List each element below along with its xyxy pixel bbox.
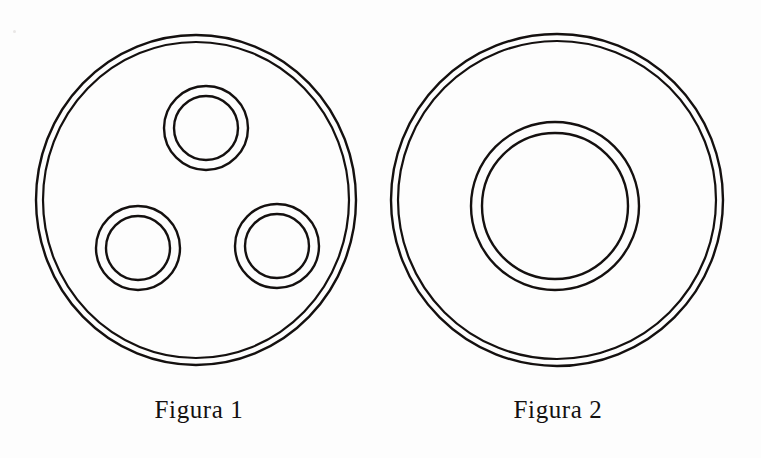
figure-1-hole-bottom-left-outer-edge [96, 206, 180, 290]
figure-2-group [391, 34, 723, 366]
figure-1-hole-bottom-right-inner-edge [245, 214, 309, 278]
scan-speck [13, 30, 16, 33]
figure-2-hole-center-inner-edge [482, 133, 628, 279]
figure-2-hole-center-outer-edge [471, 122, 639, 290]
figure-2-plate-inner-edge [398, 41, 716, 359]
figure-2-plate-outer-edge [391, 34, 723, 366]
figure-sheet: Figura 1 Figura 2 [0, 0, 761, 458]
figure-1-hole-bottom-left-inner-edge [106, 216, 170, 280]
figure-1-group [36, 35, 356, 365]
figure-1-hole-bottom-right-outer-edge [235, 204, 319, 288]
figures-illustration [0, 0, 761, 458]
figure-1-hole-top-inner-edge [174, 96, 238, 160]
figure-2-caption: Figura 2 [514, 397, 603, 422]
figure-1-hole-top-outer-edge [164, 86, 248, 170]
figure-1-plate-inner-edge [43, 42, 349, 358]
figure-1-caption: Figura 1 [155, 397, 244, 422]
figure-1-plate-outer-edge [36, 35, 356, 365]
